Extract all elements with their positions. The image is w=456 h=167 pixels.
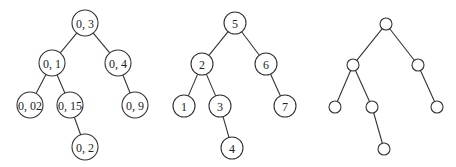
tree-shape bbox=[329, 18, 443, 155]
tree-node: 0, 02 bbox=[17, 92, 43, 118]
tree-node: 2 bbox=[191, 53, 213, 75]
tree-node: 3 bbox=[209, 95, 231, 117]
tree-node: 7 bbox=[274, 95, 296, 117]
node-label: 6 bbox=[263, 58, 269, 72]
node-circle bbox=[329, 101, 341, 113]
node-label: 4 bbox=[229, 142, 235, 156]
tree-node bbox=[329, 101, 341, 113]
tree-edge bbox=[209, 32, 228, 56]
node-circle bbox=[380, 18, 392, 30]
tree-edge bbox=[74, 117, 80, 135]
tree-node bbox=[431, 101, 443, 113]
tree-edge bbox=[357, 29, 382, 61]
tree-edge bbox=[188, 74, 197, 96]
tree-node: 0, 1 bbox=[39, 50, 65, 76]
tree-edge bbox=[242, 32, 260, 55]
tree-node bbox=[380, 18, 392, 30]
tree-decimal: 0, 30, 10, 40, 020, 150, 90, 2 bbox=[17, 10, 148, 160]
tree-node: 0, 3 bbox=[72, 10, 98, 36]
node-circle bbox=[378, 143, 390, 155]
tree-node: 4 bbox=[221, 137, 243, 159]
tree-node: 0, 15 bbox=[57, 92, 83, 118]
tree-node: 0, 4 bbox=[105, 50, 131, 76]
node-label: 7 bbox=[282, 100, 288, 114]
tree-node bbox=[412, 59, 424, 71]
tree-edge bbox=[206, 74, 215, 96]
tree-edge bbox=[123, 75, 130, 93]
tree-edge bbox=[271, 74, 281, 96]
node-label: 0, 1 bbox=[43, 57, 61, 71]
binary-trees-diagram: 0, 30, 10, 40, 020, 150, 90, 25261374 bbox=[0, 0, 456, 167]
tree-edge bbox=[355, 70, 369, 101]
tree-edge bbox=[337, 71, 350, 102]
tree-edge bbox=[36, 75, 46, 94]
tree-edge bbox=[390, 29, 415, 61]
node-label: 0, 9 bbox=[126, 99, 144, 113]
tree-node: 6 bbox=[255, 53, 277, 75]
tree-edge bbox=[420, 70, 434, 101]
node-label: 0, 2 bbox=[76, 141, 94, 155]
node-label: 2 bbox=[199, 58, 205, 72]
node-circle bbox=[412, 59, 424, 71]
tree-integer: 5261374 bbox=[173, 12, 296, 159]
node-label: 0, 4 bbox=[109, 57, 127, 71]
node-label: 0, 02 bbox=[18, 99, 42, 113]
node-label: 3 bbox=[217, 100, 223, 114]
tree-edge bbox=[57, 75, 65, 93]
node-label: 0, 3 bbox=[76, 17, 94, 31]
tree-edge bbox=[60, 33, 76, 53]
tree-node: 1 bbox=[173, 95, 195, 117]
node-label: 0, 15 bbox=[58, 99, 82, 113]
tree-edge bbox=[93, 33, 109, 53]
node-circle bbox=[347, 59, 359, 71]
tree-node: 0, 2 bbox=[72, 134, 98, 160]
tree-node bbox=[347, 59, 359, 71]
node-label: 5 bbox=[232, 17, 238, 31]
tree-node: 0, 9 bbox=[122, 92, 148, 118]
tree-node bbox=[366, 101, 378, 113]
tree-edge bbox=[374, 113, 383, 143]
tree-node: 5 bbox=[224, 12, 246, 34]
node-label: 1 bbox=[181, 100, 187, 114]
node-circle bbox=[366, 101, 378, 113]
tree-node bbox=[378, 143, 390, 155]
node-circle bbox=[431, 101, 443, 113]
tree-edge bbox=[223, 117, 229, 138]
